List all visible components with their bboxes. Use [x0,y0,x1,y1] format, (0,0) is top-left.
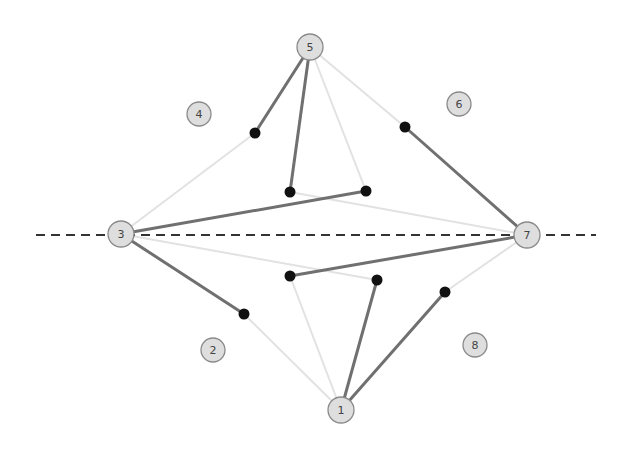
point-dot [285,187,296,198]
points [239,122,451,320]
light-edge [310,47,405,127]
light-edge [244,314,341,410]
point-dot [285,271,296,282]
node-8: 8 [463,333,487,357]
light-edge [290,276,341,410]
light-edge [121,234,377,280]
node-label: 7 [524,229,531,242]
dark-edge [290,235,527,276]
point-dot [440,287,451,298]
dark-edge [255,47,310,133]
point-dot [239,309,250,320]
node-label: 5 [307,41,314,54]
point-dot [400,122,411,133]
node-label: 8 [472,339,479,352]
node-label: 3 [118,228,125,241]
node-6: 6 [447,92,471,116]
point-dot [250,128,261,139]
node-label: 6 [456,98,463,111]
node-5: 5 [297,34,323,60]
node-4: 4 [187,102,211,126]
dark-edge [405,127,527,235]
node-7: 7 [514,222,540,248]
node-3: 3 [108,221,134,247]
dark-edge [121,191,366,234]
node-label: 4 [196,108,203,121]
dark-edge [290,47,310,192]
node-label: 2 [210,344,217,357]
diagram-canvas: 53714628 [0,0,623,452]
node-1: 1 [328,397,354,423]
node-2: 2 [201,338,225,362]
light-edge [310,47,366,191]
light-edge [121,133,255,234]
point-dot [361,186,372,197]
node-label: 1 [338,404,345,417]
point-dot [372,275,383,286]
